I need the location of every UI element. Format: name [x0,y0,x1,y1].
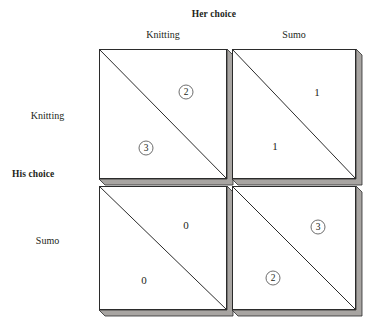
payoff-lower-left-his: 1 [272,141,278,152]
payoff-upper-right-her: 1 [314,87,320,98]
matrix-cell-sumo-sumo[interactable]: 3 2 [232,186,356,310]
payoff-lower-left-his: 2 [266,271,281,286]
payoff-upper-right-her: 2 [179,85,194,100]
cell-diagonal-icon [232,49,356,179]
matrix-cell-sumo-knitting[interactable]: 0 0 [99,186,227,310]
payoff-upper-right-her: 0 [183,220,189,231]
payoff-upper-right-her: 3 [311,220,326,235]
cell-diagonal-icon [99,186,227,310]
matrix-cell-knitting-sumo[interactable]: 1 1 [232,49,356,179]
payoff-lower-left-his: 3 [139,141,154,156]
cell-diagonal-icon [232,186,356,310]
cell-diagonal-icon [99,49,227,179]
matrix-cell-knitting-knitting[interactable]: 2 3 [99,49,227,179]
payoff-matrix: 2 3 1 1 0 0 3 2 [0,0,376,329]
payoff-lower-left-his: 0 [141,275,147,286]
